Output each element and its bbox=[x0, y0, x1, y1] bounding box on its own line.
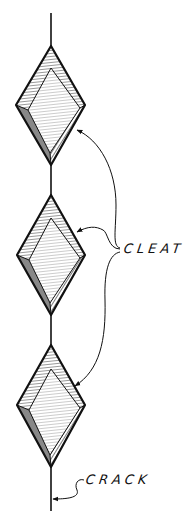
cleat-2 bbox=[17, 195, 85, 315]
crack-leader-arrow bbox=[53, 480, 84, 499]
crack-label: CRACK bbox=[85, 472, 152, 487]
cleat-crack-diagram bbox=[0, 0, 193, 524]
cleat-leader-arrow-1 bbox=[77, 130, 120, 248]
cleat-leader-arrow-3 bbox=[75, 252, 120, 386]
cleat-leader-arrow-2 bbox=[77, 227, 120, 249]
cleat-3 bbox=[17, 345, 85, 467]
cleat-label: CLEAT bbox=[123, 241, 186, 256]
cleat-1 bbox=[16, 46, 85, 165]
